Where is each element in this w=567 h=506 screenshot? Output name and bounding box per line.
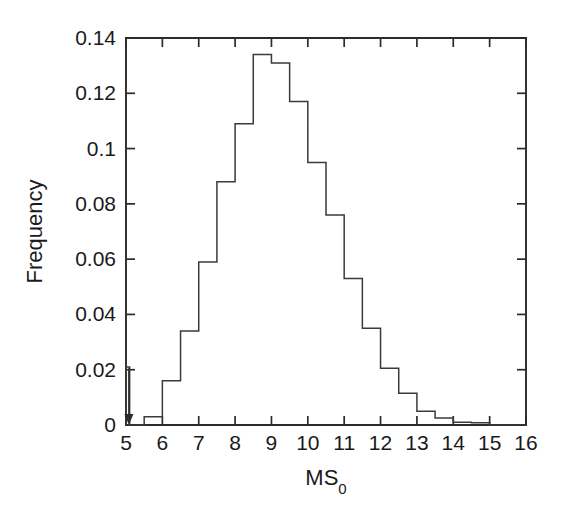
x-axis-tick-labels: 5678910111213141516 <box>120 431 538 454</box>
y-tick-label-0.08: 0.08 <box>75 192 116 215</box>
chart-canvas: 5678910111213141516 00.020.040.060.080.1… <box>0 0 567 506</box>
y-tick-label-0.14: 0.14 <box>75 26 116 49</box>
x-axis-ticks <box>126 38 526 425</box>
y-tick-label-0: 0 <box>104 413 116 436</box>
x-tick-label-6: 6 <box>157 431 169 454</box>
x-tick-label-9: 9 <box>266 431 278 454</box>
histogram-series <box>126 55 526 425</box>
y-tick-label-0.12: 0.12 <box>75 81 116 104</box>
y-tick-label-0.04: 0.04 <box>75 302 116 325</box>
x-tick-label-8: 8 <box>229 431 241 454</box>
y-axis-ticks <box>126 38 526 425</box>
x-tick-label-5: 5 <box>120 431 132 454</box>
x-tick-label-13: 13 <box>405 431 428 454</box>
x-tick-label-11: 11 <box>333 431 355 454</box>
x-axis-title-main: MS <box>305 465 338 490</box>
x-tick-label-16: 16 <box>514 431 537 454</box>
axis-frame <box>126 38 526 425</box>
y-axis-tick-labels: 00.020.040.060.080.10.120.14 <box>75 26 116 436</box>
x-axis-title-subscript: 0 <box>338 480 346 497</box>
histogram-figure: 5678910111213141516 00.020.040.060.080.1… <box>0 0 567 506</box>
histogram-outline <box>126 55 526 425</box>
y-axis-title: Frequency <box>22 180 47 284</box>
x-tick-label-10: 10 <box>296 431 319 454</box>
x-tick-label-14: 14 <box>442 431 466 454</box>
y-tick-label-0.1: 0.1 <box>87 137 116 160</box>
y-tick-label-0.02: 0.02 <box>75 358 116 381</box>
x-tick-label-12: 12 <box>369 431 392 454</box>
x-tick-label-15: 15 <box>478 431 501 454</box>
x-axis-title: MS0 <box>305 465 346 497</box>
plot-frame <box>126 38 526 425</box>
y-tick-label-0.06: 0.06 <box>75 247 116 270</box>
x-tick-label-7: 7 <box>193 431 205 454</box>
